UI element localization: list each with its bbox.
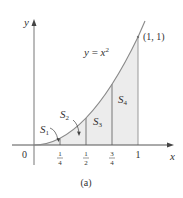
- y-axis-label: y: [23, 16, 29, 28]
- point-1-1: [137, 36, 139, 38]
- origin-label: 0: [22, 149, 27, 160]
- x-axis-arrow-icon: [167, 143, 174, 148]
- curve-eq-exponent: 2: [106, 46, 110, 54]
- tick-quarter: 1 4: [57, 150, 63, 167]
- figure-caption: (a): [80, 177, 91, 189]
- x-axis-label: x: [169, 150, 175, 162]
- curve-equation-label: y = x2: [83, 46, 110, 58]
- region-s4-sub: 4: [124, 99, 128, 107]
- region-s3-sub: 3: [99, 121, 103, 129]
- tick-three-quarter: 3 4: [109, 150, 115, 167]
- tick-half-den: 2: [84, 159, 88, 167]
- tick-one: 1: [136, 149, 141, 160]
- tick-quarter-num: 1: [58, 150, 62, 158]
- tick-half-num: 1: [84, 150, 88, 158]
- region-s2-sub: 2: [66, 114, 70, 122]
- tick-three-quarter-num: 3: [110, 150, 114, 158]
- area-under-parabola-diagram: y x 0 (1, 1) y = x2 1 4 1 2 3 4 1 S1 S2 …: [0, 0, 183, 198]
- y-axis-arrow-icon: [32, 19, 37, 26]
- tick-three-quarter-den: 4: [110, 159, 114, 167]
- region-label-s1: S1: [40, 123, 50, 137]
- tick-half: 1 2: [83, 150, 89, 167]
- region-label-s2: S2: [60, 108, 70, 122]
- curve-eq-equals: =: [89, 46, 101, 58]
- point-label: (1, 1): [143, 31, 165, 43]
- tick-quarter-den: 4: [58, 159, 62, 167]
- region-s1-sub: 1: [46, 129, 50, 137]
